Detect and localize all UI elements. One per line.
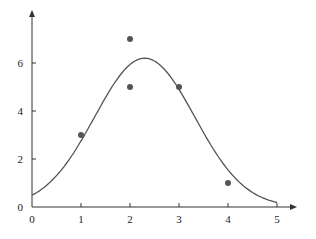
x-tick-label: 4 [225, 213, 231, 225]
y-tick-label: 4 [18, 105, 24, 117]
ticks: 0123450246 [18, 57, 281, 225]
y-tick-label: 2 [18, 153, 24, 165]
y-tick-label: 0 [18, 201, 24, 213]
x-tick-label: 2 [127, 213, 133, 225]
scatter-plot-with-fitted-curve: 0123450246 [0, 0, 316, 239]
fitted-curve [32, 58, 277, 202]
data-point [225, 180, 231, 186]
data-point [127, 84, 133, 90]
x-tick-label: 1 [78, 213, 84, 225]
x-tick-label: 5 [274, 213, 280, 225]
data-point [78, 132, 84, 138]
y-axis-arrow-icon [29, 10, 35, 17]
x-tick-label: 0 [29, 213, 35, 225]
axes [29, 10, 297, 210]
y-tick-label: 6 [18, 57, 24, 69]
data-point [176, 84, 182, 90]
x-tick-label: 3 [176, 213, 182, 225]
data-points [78, 36, 231, 186]
x-axis-arrow-icon [290, 204, 297, 210]
data-point [127, 36, 133, 42]
